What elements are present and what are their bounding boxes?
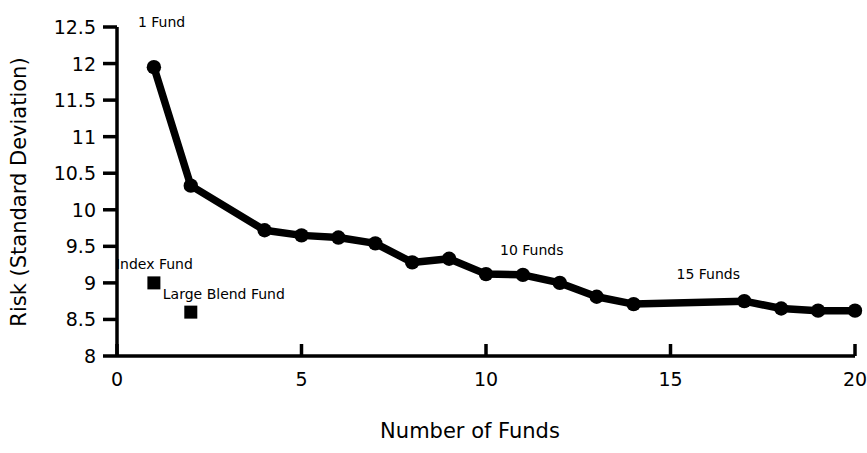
series-line [154,67,855,310]
data-point-marker [368,236,382,250]
data-point-marker [774,301,788,315]
chart-annotation-label: 10 Funds [500,242,563,258]
data-point-marker [479,267,493,281]
y-tick-label: 12.5 [54,16,96,38]
data-point-marker [294,228,308,242]
x-tick-label: 15 [658,368,682,390]
x-tick-label: 0 [111,368,123,390]
data-point-marker [442,252,456,266]
y-tick-label: 8 [84,345,96,367]
series-marker-group [147,60,863,319]
y-axis-title: Risk (Standard Deviation) [7,57,31,326]
data-point-marker [405,255,419,269]
data-point-marker [811,303,825,317]
chart-annotation-label: Large Blend Fund [163,286,285,302]
data-point-marker [590,290,604,304]
data-point-marker [848,303,862,317]
chart-annotation-label: 15 Funds [677,266,740,282]
y-axis-tick-group: 88.599.51010.51111.51212.5 [54,16,117,367]
data-point-marker [331,230,345,244]
x-axis-title: Number of Funds [380,419,560,443]
y-tick-label: 8.5 [66,308,96,330]
chart-annotation-label: Index Fund [116,256,193,272]
y-tick-label: 11 [72,126,96,148]
risk-vs-number-of-funds-line-chart: Risk (Standard Deviation) Number of Fund… [0,0,867,453]
series-line-group [154,67,855,310]
x-tick-label: 5 [295,368,307,390]
y-tick-label: 9 [84,272,96,294]
data-point-marker [737,294,751,308]
data-point-marker [553,276,567,290]
x-tick-label: 20 [843,368,867,390]
data-point-marker [147,60,161,74]
data-point-marker [257,223,271,237]
y-tick-label: 10 [72,199,96,221]
data-point-marker [626,297,640,311]
benchmark-square-marker [147,276,160,289]
y-tick-label: 12 [72,53,96,75]
data-point-marker [516,268,530,282]
chart-annotation-label: 1 Fund [138,14,185,30]
x-axis-tick-group: 05101520 [111,344,867,390]
y-tick-label: 11.5 [54,89,96,111]
y-tick-label: 9.5 [66,235,96,257]
benchmark-square-marker [184,306,197,319]
y-tick-label: 10.5 [54,162,96,184]
chart-container: Risk (Standard Deviation) Number of Fund… [0,0,867,453]
x-tick-label: 10 [474,368,498,390]
data-point-marker [184,178,198,192]
